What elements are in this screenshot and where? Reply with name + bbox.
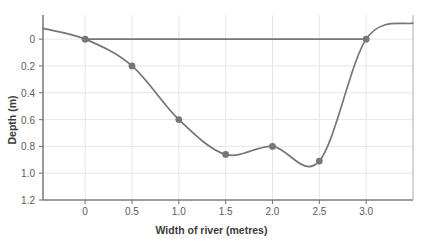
y-tick-label: 1.2 (0, 195, 35, 206)
x-tick-label: 0.5 (125, 206, 139, 217)
plot-frame (43, 15, 413, 200)
x-tick-label: 3.0 (359, 206, 373, 217)
data-point-marker (175, 116, 182, 123)
y-tick-label: 1.0 (0, 168, 35, 179)
x-tick-label: 1.0 (172, 206, 186, 217)
x-tick-label: 2.0 (266, 206, 280, 217)
data-point-marker (363, 36, 370, 43)
data-point-marker (82, 36, 89, 43)
data-point-marker (222, 151, 229, 158)
grid-lines (43, 15, 413, 200)
tick-marks (39, 39, 366, 204)
data-point-marker (269, 143, 276, 150)
river-cross-section-chart: 00.20.40.60.81.01.2 00.51.01.52.02.53.0 … (0, 0, 423, 239)
chart-plot-area (0, 0, 423, 239)
x-axis-title: Width of river (metres) (0, 224, 423, 236)
data-point-marker (129, 63, 136, 70)
x-tick-label: 1.5 (219, 206, 233, 217)
riverbed-profile-line (43, 23, 413, 167)
y-axis-title: Depth (m) (6, 80, 18, 160)
x-tick-label: 2.5 (312, 206, 326, 217)
x-tick-label: 0 (82, 206, 88, 217)
y-tick-label: 0.2 (0, 60, 35, 71)
data-point-marker (316, 158, 323, 165)
riverbed-curve (43, 23, 413, 167)
y-tick-label: 0 (0, 34, 35, 45)
